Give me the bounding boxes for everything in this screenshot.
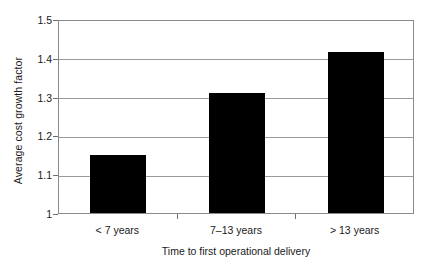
x-axis-tick-mark: [295, 214, 296, 219]
bar: [209, 93, 265, 213]
y-axis-tick-mark: [53, 59, 58, 60]
y-axis-title: Average cost growth factor: [11, 13, 25, 228]
y-axis-tick-label: 1: [26, 209, 52, 219]
x-axis-title: Time to first operational delivery: [58, 245, 414, 257]
y-axis-tick-mark: [53, 136, 58, 137]
bar-chart-figure: Average cost growth factor 1.51.41.31.21…: [0, 0, 430, 270]
x-axis-tick-label: 7–13 years: [177, 224, 296, 236]
y-axis-tick-label: 1.3: [26, 93, 52, 103]
y-axis-tick-mark: [53, 175, 58, 176]
x-axis-tick-label: > 13 years: [295, 224, 414, 236]
y-axis-tick-label: 1.2: [26, 131, 52, 141]
y-axis-tick-labels: 1.51.41.31.21.11: [26, 0, 52, 270]
x-axis-tick-mark: [177, 214, 178, 219]
y-axis-tick-mark: [53, 98, 58, 99]
y-axis-tick-label: 1.1: [26, 170, 52, 180]
y-axis-tick-mark: [53, 214, 58, 215]
x-axis-tick-label: < 7 years: [58, 224, 177, 236]
y-axis-tick-mark: [53, 20, 58, 21]
bar: [90, 155, 146, 213]
y-axis-tick-label: 1.4: [26, 54, 52, 64]
plot-area: [58, 20, 414, 214]
y-axis-tick-label: 1.5: [26, 15, 52, 25]
bar: [328, 52, 384, 213]
